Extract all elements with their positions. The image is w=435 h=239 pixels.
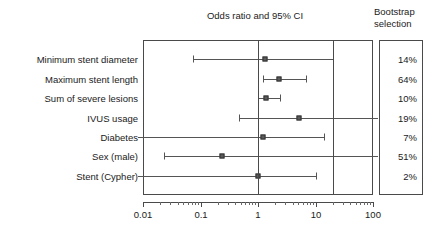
x-tick-label: 0.01 bbox=[134, 209, 153, 220]
row-label: Maximum stent length bbox=[2, 73, 138, 84]
x-tick-minor bbox=[195, 202, 196, 205]
x-tick-minor bbox=[367, 202, 368, 205]
x-tick-minor bbox=[293, 202, 294, 205]
bootstrap-header-line-2: selection bbox=[374, 18, 432, 30]
x-tick-major bbox=[201, 202, 202, 207]
x-tick-minor bbox=[228, 202, 229, 205]
x-tick-label: 0.1 bbox=[194, 209, 207, 220]
x-tick-minor bbox=[245, 202, 246, 205]
x-tick-minor bbox=[160, 202, 161, 205]
reference-line-1 bbox=[258, 40, 259, 195]
x-tick-minor bbox=[356, 202, 357, 205]
x-tick-minor bbox=[218, 202, 219, 205]
x-tick-major bbox=[143, 202, 144, 207]
row-label: Sex (male) bbox=[2, 151, 138, 162]
bootstrap-selection-value: 10% bbox=[379, 93, 417, 104]
x-tick-minor bbox=[178, 202, 179, 205]
x-tick-major bbox=[373, 202, 374, 207]
reference-line-20 bbox=[333, 40, 334, 195]
x-tick-minor bbox=[255, 202, 256, 205]
x-tick-minor bbox=[303, 202, 304, 205]
x-tick-minor bbox=[275, 202, 276, 205]
x-tick-major bbox=[258, 202, 259, 207]
x-tick-label: 10 bbox=[311, 209, 322, 220]
x-tick-minor bbox=[170, 202, 171, 205]
bootstrap-header-line-1: Bootstrap bbox=[374, 6, 432, 18]
forest-plot-figure: Odds ratio and 95% CI Bootstrap selectio… bbox=[0, 0, 435, 239]
bootstrap-selection-value: 7% bbox=[379, 131, 417, 142]
x-tick-minor bbox=[370, 202, 371, 205]
x-tick-minor bbox=[298, 202, 299, 205]
row-label: IVUS usage bbox=[2, 112, 138, 123]
x-tick-minor bbox=[249, 202, 250, 205]
bootstrap-selection-value: 64% bbox=[379, 73, 417, 84]
x-tick-minor bbox=[183, 202, 184, 205]
bootstrap-selection-value: 19% bbox=[379, 112, 417, 123]
x-tick-major bbox=[316, 202, 317, 207]
bootstrap-selection-value: 51% bbox=[379, 151, 417, 162]
x-tick-label: 100 bbox=[365, 209, 381, 220]
x-tick-minor bbox=[252, 202, 253, 205]
chart-title: Odds ratio and 95% CI bbox=[175, 10, 335, 21]
x-tick-minor bbox=[285, 202, 286, 205]
x-tick-minor bbox=[198, 202, 199, 205]
bootstrap-selection-value: 2% bbox=[379, 170, 417, 181]
x-tick-minor bbox=[188, 202, 189, 205]
x-tick-minor bbox=[235, 202, 236, 205]
row-label: Stent (Cypher) bbox=[2, 170, 138, 181]
x-tick-minor bbox=[192, 202, 193, 205]
x-tick-minor bbox=[343, 202, 344, 205]
x-tick-minor bbox=[350, 202, 351, 205]
bootstrap-selection-value: 14% bbox=[379, 54, 417, 65]
row-label: Diabetes bbox=[2, 131, 138, 142]
x-tick-minor bbox=[364, 202, 365, 205]
x-tick-minor bbox=[360, 202, 361, 205]
x-tick-minor bbox=[310, 202, 311, 205]
x-tick-minor bbox=[307, 202, 308, 205]
bootstrap-column-header: Bootstrap selection bbox=[374, 6, 432, 30]
row-label: Sum of severe lesions bbox=[2, 93, 138, 104]
x-tick-label: 1 bbox=[255, 209, 260, 220]
x-tick-minor bbox=[313, 202, 314, 205]
x-tick-minor bbox=[241, 202, 242, 205]
row-label: Minimum stent diameter bbox=[2, 54, 138, 65]
row-label-column: Minimum stent diameterMaximum stent leng… bbox=[0, 0, 138, 239]
x-tick-minor bbox=[333, 202, 334, 205]
